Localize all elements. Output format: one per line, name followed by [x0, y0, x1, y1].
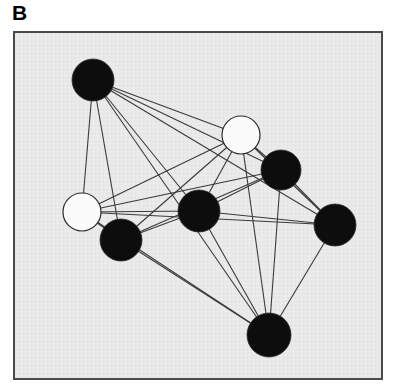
graph-node-black[interactable] — [72, 59, 114, 101]
graph-node-black[interactable] — [247, 313, 291, 357]
panel-label: B — [12, 1, 27, 25]
network-graph-svg — [13, 31, 383, 380]
graph-panel — [13, 31, 383, 380]
figure-root: B — [0, 0, 394, 390]
graph-node-black[interactable] — [261, 150, 301, 190]
graph-node-white[interactable] — [63, 193, 101, 231]
graph-node-white[interactable] — [222, 116, 260, 154]
graph-node-black[interactable] — [178, 190, 220, 232]
graph-node-black[interactable] — [314, 204, 356, 246]
graph-node-black[interactable] — [100, 219, 142, 261]
